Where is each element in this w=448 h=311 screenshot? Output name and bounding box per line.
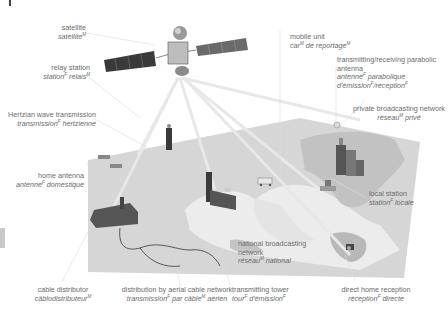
illustration [0, 0, 448, 311]
label-home-antenna: home antenna antenneF domestique [10, 172, 84, 189]
relay-tower-icon [166, 124, 172, 150]
label-hertzian-wave-transmission: Hertzian wave transmission transmissionF… [2, 111, 96, 128]
satellite-icon [104, 26, 248, 76]
label-national-broadcasting-network: national broadcasting network réseauM na… [238, 240, 308, 266]
label-direct-home-reception: direct home reception réceptionF directe [336, 286, 416, 303]
label-parabolic-antenna: transmitting/receiving parabolic antenna… [337, 56, 447, 90]
direct-home-reception-icon [346, 244, 354, 250]
label-private-broadcasting-network: private broadcasting network réseauM pri… [350, 105, 448, 122]
label-aerial-cable-distribution: distribution by aerial cable network tra… [118, 286, 236, 303]
label-relay-station: relay station stationF relaisM [10, 64, 90, 81]
label-mobile-unit: mobile unit carM de reportageM [290, 33, 360, 50]
broadcast-satellite-diagram: satellite satelliteM relay station stati… [0, 0, 448, 311]
label-local-station: local station stationF locale [369, 190, 429, 207]
label-transmitting-tower: transmitting tower tourF d'émissionF [232, 286, 292, 303]
parabolic-antenna-icon [334, 122, 340, 128]
label-satellite: satellite satelliteM [20, 24, 86, 41]
label-cable-distributor: cable distributor câblodistributeurM [28, 286, 98, 303]
